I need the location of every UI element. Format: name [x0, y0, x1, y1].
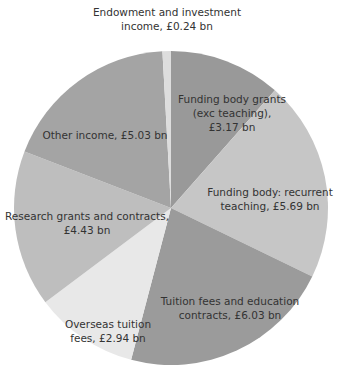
- slice-label-line: £4.43 bn: [5, 223, 169, 237]
- slice-label-line: fees, £2.94 bn: [65, 331, 151, 345]
- slice-label-line: Funding body grants: [178, 92, 286, 106]
- slice-label: Other income, £5.03 bn: [42, 128, 167, 142]
- slice-label-line: Research grants and contracts,: [5, 209, 169, 223]
- slice-label: Research grants and contracts,£4.43 bn: [5, 209, 169, 237]
- slice-label: Tuition fees and educationcontracts, £6.…: [161, 294, 299, 322]
- slice-label-line: Overseas tuition: [65, 317, 151, 331]
- slice-label-line: (exc teaching),: [178, 106, 286, 120]
- slice-label: Funding body: recurrentteaching, £5.69 b…: [207, 185, 333, 213]
- slice-label-line: Funding body: recurrent: [207, 185, 333, 199]
- slice-label-line: Other income, £5.03 bn: [42, 128, 167, 142]
- slice-label-line: income, £0.24 bn: [93, 19, 241, 33]
- slice-label-line: Endowment and investment: [93, 5, 241, 19]
- slice-label: Overseas tuitionfees, £2.94 bn: [65, 317, 151, 345]
- slice-label-line: £3.17 bn: [178, 120, 286, 134]
- slice-label: Funding body grants(exc teaching),£3.17 …: [178, 92, 286, 134]
- slice-label-line: teaching, £5.69 bn: [207, 199, 333, 213]
- slice-label: Endowment and investmentincome, £0.24 bn: [93, 5, 241, 33]
- slice-label-line: contracts, £6.03 bn: [161, 308, 299, 322]
- slice-label-line: Tuition fees and education: [161, 294, 299, 308]
